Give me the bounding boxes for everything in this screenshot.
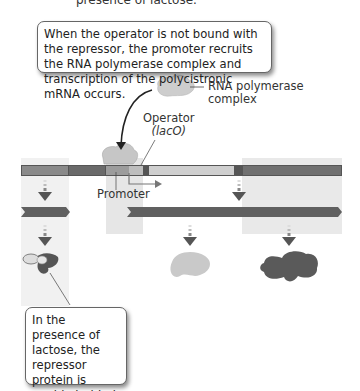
- lacZ-segment: [149, 166, 234, 175]
- lac-protein-dark-icon: [260, 251, 318, 281]
- beta-galactosidase-icon: [170, 252, 210, 277]
- operator-segment: [129, 166, 143, 175]
- callout-transcription: When the operator is not bound with the …: [37, 21, 272, 73]
- lactose-molecule-icon: [23, 254, 39, 264]
- promoter-label: Promoter: [97, 188, 150, 201]
- callout-lactose: In the presence of lactose, the represso…: [25, 307, 127, 385]
- lacI-mrna: [21, 207, 70, 217]
- down-arrow-icon: [183, 225, 197, 246]
- rna-polymerase-label-line2: complex: [208, 93, 304, 106]
- polycistronic-mrna: [127, 207, 342, 217]
- lacI-gene-segment: [22, 166, 68, 175]
- operator-label: Operator (lacO): [143, 112, 194, 138]
- rna-polymerase-label: RNA polymerase complex: [208, 80, 304, 106]
- operator-label-line2: (lacO): [143, 125, 194, 138]
- lacA-segment: [243, 166, 341, 175]
- promoter-segment: [106, 166, 129, 175]
